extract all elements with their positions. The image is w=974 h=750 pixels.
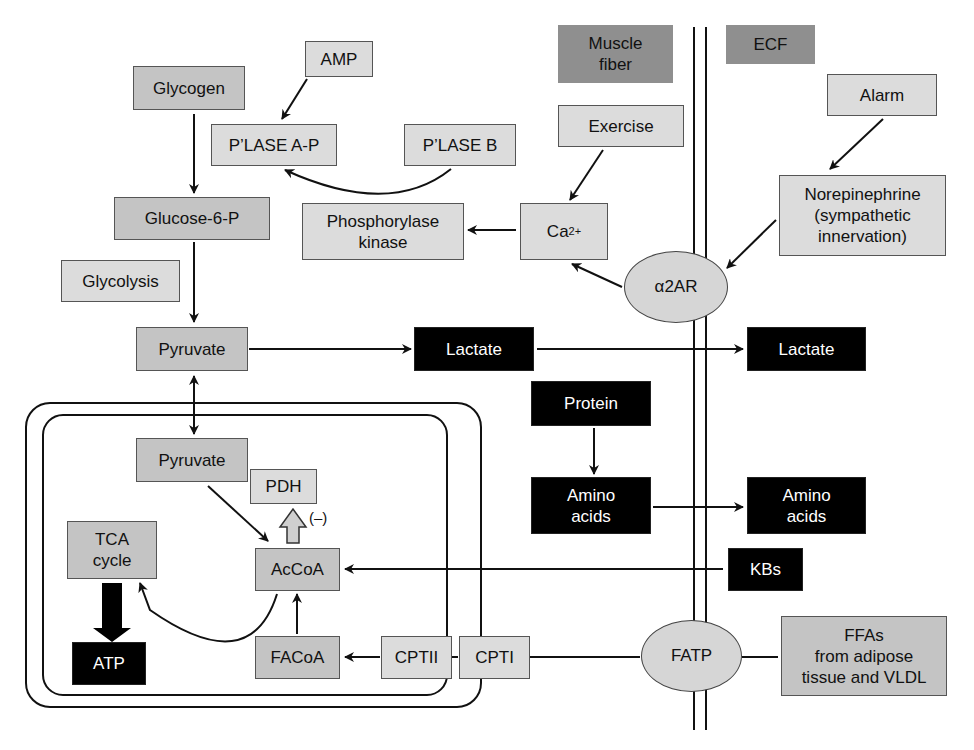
node-amino-acids-cell[interactable]: Amino acids <box>531 477 651 534</box>
node-exercise[interactable]: Exercise <box>558 105 684 147</box>
node-plase-b[interactable]: P’LASE B <box>404 124 516 166</box>
calcium-charge: 2+ <box>569 221 582 242</box>
node-alarm[interactable]: Alarm <box>827 74 937 116</box>
node-norepinephrine[interactable]: Norepinephrine (sympathetic innervation) <box>779 175 946 256</box>
node-lactate-ecf[interactable]: Lactate <box>747 327 866 371</box>
node-alpha2-adrenergic-receptor[interactable]: α2AR <box>624 251 728 323</box>
node-accoa[interactable]: AcCoA <box>255 548 340 591</box>
node-cptii[interactable]: CPTII <box>381 636 452 679</box>
node-amp[interactable]: AMP <box>305 41 373 77</box>
muscle-fiber-label: Muscle fiber <box>558 25 673 83</box>
ecf-label: ECF <box>726 25 815 64</box>
node-glycolysis[interactable]: Glycolysis <box>61 260 180 302</box>
node-protein[interactable]: Protein <box>531 381 651 426</box>
node-atp[interactable]: ATP <box>72 642 146 685</box>
node-phosphorylase-kinase[interactable]: Phosphorylase kinase <box>302 203 464 260</box>
node-ketone-bodies[interactable]: KBs <box>728 548 803 591</box>
node-cpti[interactable]: CPTI <box>459 636 530 679</box>
node-glucose-6-p[interactable]: Glucose-6-P <box>114 197 270 240</box>
node-pdh[interactable]: PDH <box>250 469 317 504</box>
node-pyruvate-mitochondria[interactable]: Pyruvate <box>136 438 248 482</box>
node-pyruvate-cytosol[interactable]: Pyruvate <box>136 327 248 371</box>
node-glycogen[interactable]: Glycogen <box>133 66 245 110</box>
pdh-inhibition-sign: (–) <box>309 509 327 526</box>
node-lactate-cell[interactable]: Lactate <box>414 327 534 371</box>
node-calcium[interactable]: Ca2+ <box>520 203 608 260</box>
node-tca-cycle[interactable]: TCA cycle <box>67 521 157 579</box>
node-ffas[interactable]: FFAs from adipose tissue and VLDL <box>781 616 947 696</box>
node-fatp[interactable]: FATP <box>641 620 742 692</box>
node-amino-acids-ecf[interactable]: Amino acids <box>747 477 866 534</box>
node-facoa[interactable]: FACoA <box>255 636 340 679</box>
calcium-symbol: Ca <box>547 221 569 242</box>
node-plase-a-p[interactable]: P’LASE A-P <box>211 124 337 166</box>
